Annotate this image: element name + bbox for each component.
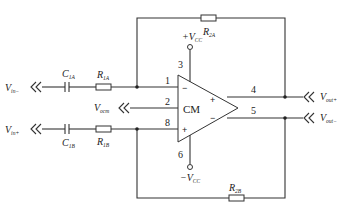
pin-1-label: 1 [165,75,170,86]
input-branch-plus: C1B R1B 8 Vin+ [5,117,178,149]
supply-terminal-icon [188,45,193,50]
supply-terminal-icon [188,165,193,170]
resistor-r2a [201,15,216,21]
c1b-label: C1B [62,137,75,149]
vocm-branch: Vocm 2 [94,96,178,114]
c1a-label: C1A [62,68,75,80]
terminal-arrow-icon [119,103,129,113]
r2b-label: R2B [228,182,242,194]
output-plus-sign: + [210,95,215,105]
vout-plus-label: Vout+ [320,91,337,103]
resistor-r2b [229,195,244,201]
input-minus-sign: − [182,83,187,93]
pin-6-label: 6 [178,149,183,160]
terminal-arrow-icon [31,124,41,134]
r1b-label: R1B [96,136,110,148]
feedback-top: R2A [137,15,285,97]
output-minus-sign: − [210,113,215,123]
terminal-arrow-icon [304,113,314,123]
input-plus-sign: + [182,125,187,135]
r2a-label: R2A [202,26,216,38]
output-minus: 5 Vout− [227,105,337,124]
vocm-label: Vocm [94,102,109,114]
pin-8-label: 8 [165,117,170,128]
pin-3-label: 3 [178,59,183,70]
supply-positive: +VCC 3 [178,31,203,82]
vin-minus-label: Vin− [5,82,19,94]
junction-dot [135,127,139,131]
pin-4-label: 4 [251,84,256,95]
vcc-negative-label: −VCC [180,172,201,184]
vcc-positive-label: +VCC [182,31,203,43]
input-branch-minus: C1A R1A 1 Vin− [5,68,178,94]
circuit-diagram: R2A R2B C1A R1A 1 Vin− C1B R1B 8 Vin+ [0,0,349,212]
amplifier-label: CM [183,103,200,115]
supply-negative: −VCC 6 [178,135,201,184]
fully-differential-amplifier: CM − + + − [178,75,238,142]
terminal-arrow-icon [304,92,314,102]
junction-dot [135,85,139,89]
vin-plus-label: Vin+ [5,124,19,136]
resistor-r1b [96,126,111,132]
terminal-arrow-icon [31,82,41,92]
vout-minus-label: Vout− [320,112,337,124]
pin-2-label: 2 [165,96,170,107]
output-plus: 4 Vout+ [227,84,337,103]
feedback-bottom: R2B [137,118,285,201]
r1a-label: R1A [96,69,110,81]
junction-dot [283,116,287,120]
resistor-r1a [96,84,111,90]
pin-5-label: 5 [251,105,256,116]
junction-dot [283,95,287,99]
